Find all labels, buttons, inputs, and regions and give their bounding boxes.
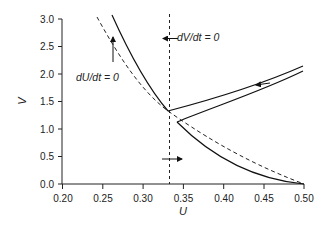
- y-tick-label: 0.0: [40, 179, 54, 190]
- x-tick-label: 0.25: [93, 193, 113, 204]
- trajectory-upper-left: [112, 15, 168, 111]
- u-nullcline-label: dU/dt = 0: [76, 71, 119, 83]
- phase-plane-chart: 0.0 0.5 1.0 1.5 2.0 2.5 3.0 V 0.20 0.25 …: [0, 0, 327, 232]
- x-tick-label: 0.40: [214, 193, 234, 204]
- x-axis: 0.20 0.25 0.30 0.35 0.40 0.45 0.50 U: [53, 184, 314, 217]
- x-axis-label: U: [179, 205, 187, 217]
- y-tick-label: 1.0: [40, 124, 54, 135]
- trajectory-upper-right-2: [177, 71, 303, 122]
- trajectory-upper-right-1: [168, 66, 303, 111]
- y-axis-label: V: [16, 96, 28, 105]
- y-tick-label: 2.5: [40, 41, 54, 52]
- v-nullcline-label: dV/dt = 0: [177, 31, 219, 43]
- x-tick-label: 0.20: [53, 193, 73, 204]
- x-tick-label: 0.35: [174, 193, 194, 204]
- trajectory-lower: [177, 122, 304, 184]
- y-tick-label: 1.5: [40, 96, 54, 107]
- x-tick-label: 0.45: [254, 193, 274, 204]
- x-tick-label: 0.50: [294, 193, 314, 204]
- y-tick-label: 0.5: [40, 151, 54, 162]
- y-tick-label: 3.0: [40, 14, 54, 25]
- y-axis: 0.0 0.5 1.0 1.5 2.0 2.5 3.0 V: [16, 14, 62, 190]
- x-tick-label: 0.30: [133, 193, 153, 204]
- y-tick-label: 2.0: [40, 69, 54, 80]
